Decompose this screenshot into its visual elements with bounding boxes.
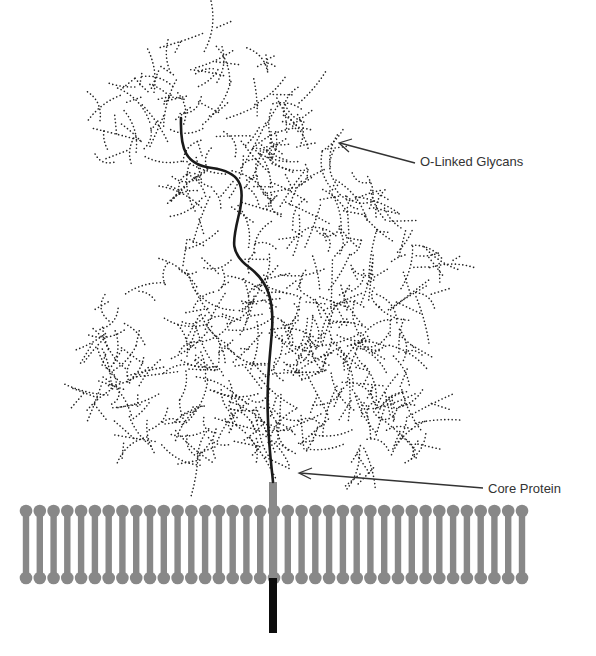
core-protein-arrow	[299, 468, 483, 488]
core-protein-cytoplasmic-tail	[269, 578, 277, 633]
core-protein-label: Core Protein	[488, 481, 561, 496]
glycans-arrow	[339, 139, 415, 163]
proteoglycan-diagram	[0, 0, 596, 656]
core-protein-chain	[181, 118, 273, 482]
o-linked-glycans-label: O-Linked Glycans	[420, 154, 523, 169]
core-protein-transmembrane-stem	[269, 482, 277, 580]
